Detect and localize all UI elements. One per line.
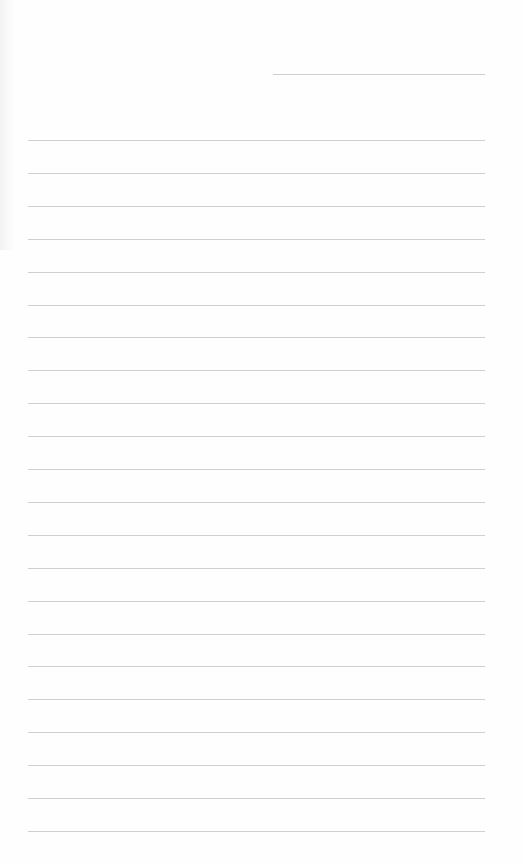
ruled-line (28, 173, 485, 174)
ruled-line (28, 469, 485, 470)
ruled-line (28, 305, 485, 306)
ruled-line (28, 765, 485, 766)
lined-paper-page (0, 0, 524, 863)
ruled-line (28, 535, 485, 536)
ruled-line (28, 206, 485, 207)
ruled-line (28, 272, 485, 273)
ruled-line (28, 403, 485, 404)
ruled-line (28, 436, 485, 437)
ruled-line (28, 568, 485, 569)
ruled-line (28, 831, 485, 832)
ruled-line (28, 370, 485, 371)
header-name-line (273, 74, 485, 75)
ruled-line (28, 140, 485, 141)
ruled-line (28, 239, 485, 240)
ruled-line (28, 699, 485, 700)
ruled-line (28, 666, 485, 667)
ruled-line (28, 502, 485, 503)
ruled-line (28, 337, 485, 338)
page-edge-shadow (0, 0, 14, 250)
ruled-line (28, 732, 485, 733)
ruled-line (28, 634, 485, 635)
ruled-line (28, 601, 485, 602)
ruled-line (28, 798, 485, 799)
